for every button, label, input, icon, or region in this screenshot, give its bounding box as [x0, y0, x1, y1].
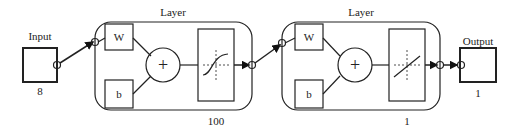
- layer-2-bias-label: b: [306, 89, 312, 100]
- layer-2-size: 1: [404, 116, 410, 127]
- layer-2-weight-label: W: [304, 32, 314, 43]
- input-size: 8: [37, 86, 43, 97]
- layer-1-title: Layer: [160, 7, 186, 18]
- connection-arrow: [255, 45, 280, 63]
- layer-1-size: 100: [208, 116, 225, 127]
- sigmoid-icon: [203, 50, 230, 80]
- connection-arrow: [60, 42, 93, 63]
- input-box: [23, 48, 57, 82]
- network-diagram: [0, 0, 514, 133]
- output-box: [460, 48, 496, 82]
- layer-2-title: Layer: [348, 7, 374, 18]
- layer-2-sum-symbol: +: [350, 56, 360, 74]
- linear-icon: [394, 50, 420, 80]
- output-label: Output: [463, 36, 494, 47]
- layer-1-weight-label: W: [114, 32, 124, 43]
- layer-1-bias-label: b: [116, 89, 122, 100]
- input-label: Input: [28, 31, 51, 42]
- layer-1-sum-symbol: +: [158, 56, 168, 74]
- output-size: 1: [475, 88, 481, 99]
